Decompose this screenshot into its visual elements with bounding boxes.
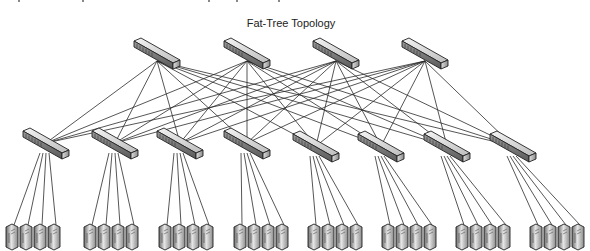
link-agg-7-server-4: [450, 156, 506, 225]
agg-8-switch-icon: [490, 131, 536, 162]
link-agg-2-server-4: [118, 153, 134, 225]
link-core-3-agg-3: [180, 61, 336, 143]
server-icon: [48, 224, 60, 250]
server-icon: [498, 224, 510, 250]
server-icon: [20, 224, 32, 250]
server-icon: [530, 224, 542, 250]
server-icon: [159, 224, 171, 250]
server-icon: [396, 224, 408, 250]
cutoff-text-fragment: [18, 0, 280, 2]
server-icon: [410, 224, 422, 250]
link-agg-2-server-3: [115, 153, 120, 225]
link-agg-1-server-3: [42, 153, 46, 225]
server-icon: [544, 224, 556, 250]
link-agg-8-server-1: [507, 156, 538, 225]
link-core-2-agg-8: [247, 61, 513, 146]
server-group-8: [530, 224, 584, 250]
link-agg-5-server-1: [310, 156, 316, 225]
link-agg-3-server-2: [177, 153, 181, 225]
link-agg-4-server-1: [241, 153, 242, 225]
diagram-title: Fat-Tree Topology: [247, 17, 336, 29]
link-agg-4-server-3: [247, 153, 270, 225]
link-agg-3-server-4: [183, 153, 209, 225]
server-icon: [308, 224, 320, 250]
link-core-1-agg-8: [157, 61, 513, 146]
server-icon: [382, 224, 394, 250]
server-icon: [558, 224, 570, 250]
link-agg-1-server-1: [14, 153, 40, 225]
core-3-switch-icon: [313, 38, 359, 69]
link-agg-1-server-2: [28, 153, 43, 225]
link-agg-3-server-3: [180, 153, 195, 225]
link-agg-5-server-2: [313, 156, 330, 225]
link-core-1-agg-2: [115, 61, 157, 143]
server-icon: [336, 224, 348, 250]
core-1-switch-icon: [134, 38, 180, 69]
server-icon: [350, 224, 362, 250]
server-icon: [84, 224, 96, 250]
server-group-1: [6, 224, 60, 250]
server-icon: [126, 224, 138, 250]
link-agg-4-server-2: [244, 153, 256, 225]
link-agg-6-server-1: [375, 156, 390, 225]
server-icon: [484, 224, 496, 250]
server-icon: [187, 224, 199, 250]
link-agg-7-server-2: [444, 156, 478, 225]
link-agg-6-server-3: [381, 156, 418, 225]
server-icon: [112, 224, 124, 250]
server-icon: [262, 224, 274, 250]
server-icon: [201, 224, 213, 250]
server-group-7: [456, 224, 510, 250]
server-icon: [470, 224, 482, 250]
server-icon: [98, 224, 110, 250]
core-switch-layer: [134, 38, 448, 69]
link-agg-5-server-3: [316, 156, 344, 225]
agg-6-switch-icon: [358, 131, 404, 162]
link-agg-1-server-4: [49, 153, 56, 225]
server-group-2: [84, 224, 138, 250]
server-icon: [424, 224, 436, 250]
server-icon: [173, 224, 185, 250]
server-icon: [456, 224, 468, 250]
link-agg-7-server-1: [441, 156, 464, 225]
link-agg-3-server-1: [167, 153, 174, 225]
server-icon: [276, 224, 288, 250]
agg-7-switch-icon: [424, 131, 470, 162]
core-aggregation-links: [46, 61, 513, 146]
fat-tree-diagram: Fat-Tree Topology: [0, 0, 590, 251]
server-group-4: [234, 224, 288, 250]
link-core-3-agg-6: [336, 61, 381, 146]
server-group-3: [159, 224, 213, 250]
server-icon: [572, 224, 584, 250]
link-agg-7-server-3: [447, 156, 492, 225]
link-agg-8-server-3: [513, 156, 566, 225]
server-icon: [248, 224, 260, 250]
server-layer: [6, 224, 584, 250]
link-agg-5-server-4: [319, 156, 358, 225]
link-agg-8-server-2: [510, 156, 552, 225]
link-agg-2-server-1: [92, 153, 109, 225]
server-icon: [234, 224, 246, 250]
server-icon: [34, 224, 46, 250]
server-icon: [322, 224, 334, 250]
link-core-3-agg-1: [46, 61, 336, 143]
link-agg-8-server-4: [516, 156, 580, 225]
agg-5-switch-icon: [293, 131, 339, 162]
server-group-6: [382, 224, 436, 250]
link-agg-2-server-2: [106, 153, 112, 225]
link-agg-4-server-4: [250, 153, 284, 225]
aggregation-server-links: [14, 153, 580, 225]
server-group-5: [308, 224, 362, 250]
server-icon: [6, 224, 18, 250]
